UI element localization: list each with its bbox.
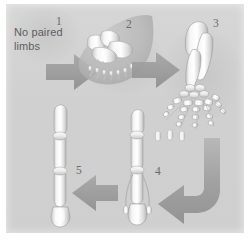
- text-overlay: No paired limbs 1 2 3 4 5: [6, 4, 244, 233]
- stage-label-5: 5: [76, 165, 82, 177]
- figure-canvas: No paired limbs 1 2 3 4 5: [0, 0, 250, 250]
- stage-label-3: 3: [213, 18, 219, 30]
- caption-no-paired-limbs: No paired limbs: [14, 26, 74, 53]
- stage-label-1: 1: [56, 16, 62, 28]
- stage-label-2: 2: [126, 19, 132, 31]
- figure-plate: No paired limbs 1 2 3 4 5: [6, 4, 244, 233]
- stage-label-4: 4: [155, 166, 161, 178]
